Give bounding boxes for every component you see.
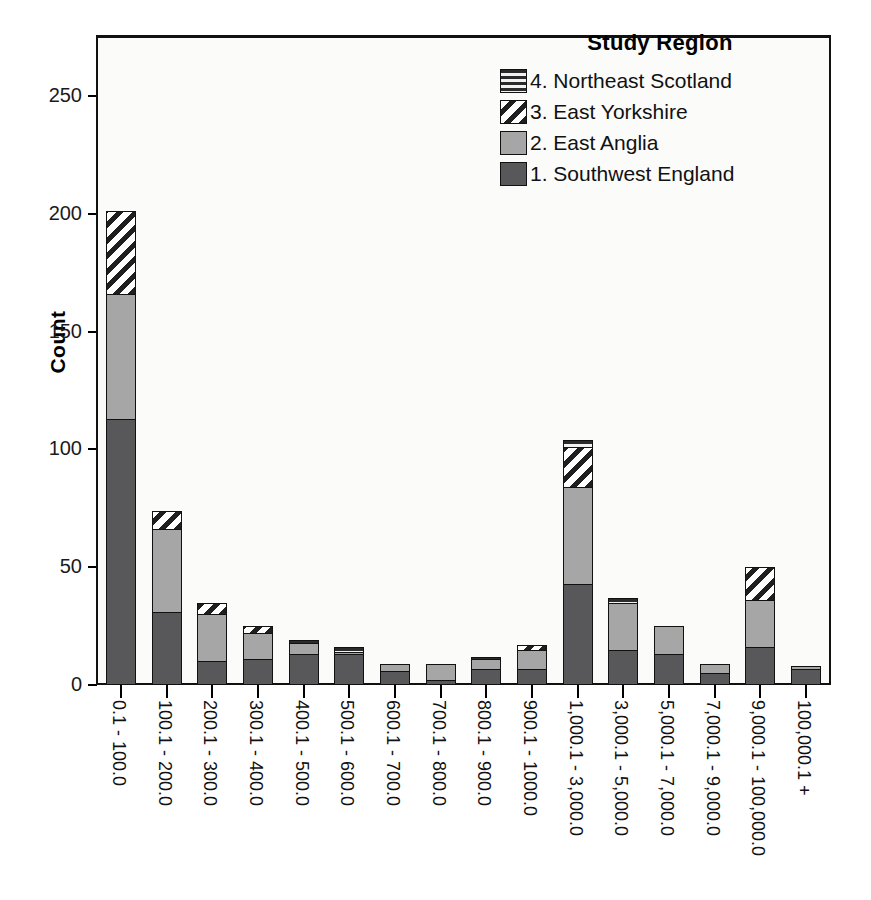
legend-item-label: 1. Southwest England [530, 162, 734, 186]
bar-segment-r1[interactable] [654, 654, 684, 685]
bar-segment-r1[interactable] [517, 669, 547, 685]
legend-item[interactable]: 3. East Yorkshire [500, 96, 850, 127]
bar-segment-r2[interactable] [745, 600, 775, 647]
x-tick-label: 100.1 - 200.0 [156, 700, 174, 806]
bar-segment-r1[interactable] [471, 669, 501, 685]
y-tick-label: 50 [22, 556, 82, 576]
bar-segment-r4[interactable] [289, 640, 319, 642]
bar-column[interactable] [243, 626, 273, 685]
x-tick-label: 500.1 - 600.0 [338, 700, 356, 806]
stacked-bar-chart: Count 050100150200250 0.1 - 100.0100.1 -… [0, 0, 871, 900]
bar-column[interactable] [745, 567, 775, 685]
x-tick-mark [485, 685, 487, 698]
bar-segment-r2[interactable] [700, 664, 730, 673]
bar-segment-r2[interactable] [563, 487, 593, 584]
x-tick-mark [257, 685, 259, 698]
x-tick-label: 1,000.1 - 3,000.0 [567, 700, 585, 836]
bar-segment-r2[interactable] [654, 626, 684, 654]
bar-column[interactable] [197, 603, 227, 685]
bar-segment-r2[interactable] [106, 294, 136, 419]
bar-segment-r2[interactable] [380, 664, 410, 671]
bar-segment-r2[interactable] [152, 529, 182, 611]
bar-column[interactable] [517, 645, 547, 685]
x-tick-mark [211, 685, 213, 698]
x-tick-label: 900.1 - 1000.0 [521, 700, 539, 816]
y-tick-label: 150 [22, 321, 82, 341]
bar-segment-r1[interactable] [745, 647, 775, 685]
x-tick-mark [394, 685, 396, 698]
legend-item-label: 4. Northeast Scotland [530, 69, 732, 93]
bar-segment-r1[interactable] [791, 669, 821, 685]
bar-segment-r2[interactable] [517, 650, 547, 669]
x-tick-mark [440, 685, 442, 698]
bar-segment-r2[interactable] [608, 603, 638, 650]
bar-segment-r1[interactable] [197, 661, 227, 685]
bar-segment-r2[interactable] [289, 643, 319, 655]
bar-column[interactable] [608, 598, 638, 685]
bar-segment-r1[interactable] [289, 654, 319, 685]
bar-segment-r3[interactable] [152, 511, 182, 530]
x-tick-mark [622, 685, 624, 698]
bar-segment-r1[interactable] [334, 654, 364, 685]
legend-item[interactable]: 4. Northeast Scotland [500, 65, 850, 96]
diagonal-hatch-swatch-icon [500, 100, 527, 124]
legend: Study Region 4. Northeast Scotland3. Eas… [500, 30, 850, 189]
x-tick-mark [120, 685, 122, 698]
legend-items: 4. Northeast Scotland3. East Yorkshire2.… [500, 65, 850, 189]
bar-column[interactable] [700, 664, 730, 685]
bar-segment-r2[interactable] [471, 659, 501, 668]
bar-segment-r2[interactable] [197, 614, 227, 661]
bar-column[interactable] [791, 666, 821, 685]
bar-column[interactable] [334, 647, 364, 685]
bar-segment-r1[interactable] [563, 584, 593, 685]
bar-column[interactable] [426, 664, 456, 685]
bar-segment-r3[interactable] [745, 567, 775, 600]
bar-segment-r3[interactable] [517, 645, 547, 650]
x-tick-mark [759, 685, 761, 698]
legend-title: Study Region [500, 30, 820, 56]
legend-item[interactable]: 1. Southwest England [500, 158, 850, 189]
bar-segment-r4[interactable] [608, 598, 638, 603]
horizontal-hatch-swatch-icon [500, 69, 527, 93]
bar-segment-r1[interactable] [608, 650, 638, 685]
x-tick-label: 700.1 - 800.0 [430, 700, 448, 806]
x-tick-label: 9,000.1 - 100,000.0 [749, 700, 767, 856]
bar-segment-r2[interactable] [334, 652, 364, 654]
bar-segment-r3[interactable] [563, 447, 593, 487]
bar-segment-r1[interactable] [106, 419, 136, 685]
x-tick-label: 0.1 - 100.0 [110, 700, 128, 786]
bar-segment-r1[interactable] [700, 673, 730, 685]
bar-segment-r1[interactable] [152, 612, 182, 685]
x-tick-label: 100,000.1 + [795, 700, 813, 796]
bar-column[interactable] [106, 211, 136, 685]
bar-segment-r3[interactable] [243, 626, 273, 633]
y-axis-title: Count [46, 282, 70, 402]
x-tick-label: 5,000.1 - 7,000.0 [658, 700, 676, 836]
bar-segment-r4[interactable] [563, 440, 593, 447]
bar-column[interactable] [654, 626, 684, 685]
bar-segment-r2[interactable] [791, 666, 821, 668]
x-tick-label: 7,000.1 - 9,000.0 [704, 700, 722, 836]
bar-segment-r4[interactable] [471, 657, 501, 659]
bar-column[interactable] [563, 440, 593, 685]
bar-column[interactable] [471, 657, 501, 685]
bar-column[interactable] [380, 664, 410, 685]
bar-segment-r1[interactable] [380, 671, 410, 685]
bar-segment-r1[interactable] [243, 659, 273, 685]
x-tick-mark [531, 685, 533, 698]
bar-column[interactable] [152, 511, 182, 685]
y-tick-label: 0 [22, 674, 82, 694]
legend-item[interactable]: 2. East Anglia [500, 127, 850, 158]
y-tick-label: 100 [22, 438, 82, 458]
bar-segment-r2[interactable] [243, 633, 273, 659]
x-tick-mark [714, 685, 716, 698]
dark-gray-swatch-icon [500, 162, 527, 186]
bar-segment-r3[interactable] [197, 603, 227, 615]
bar-column[interactable] [289, 640, 319, 685]
bar-segment-r3[interactable] [106, 211, 136, 293]
y-tick-label: 200 [22, 203, 82, 223]
x-tick-mark [166, 685, 168, 698]
x-tick-label: 3,000.1 - 5,000.0 [612, 700, 630, 836]
bar-segment-r2[interactable] [426, 664, 456, 680]
bar-segment-r4[interactable] [334, 647, 364, 652]
